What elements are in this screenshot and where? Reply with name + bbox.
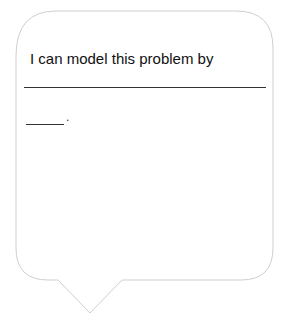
speech-bubble-shape: [0, 0, 285, 324]
prompt-text: I can model this problem by: [30, 50, 213, 67]
answer-blank-line-1[interactable]: [24, 87, 266, 88]
end-period: .: [66, 110, 69, 124]
answer-blank-line-2[interactable]: [26, 124, 64, 125]
